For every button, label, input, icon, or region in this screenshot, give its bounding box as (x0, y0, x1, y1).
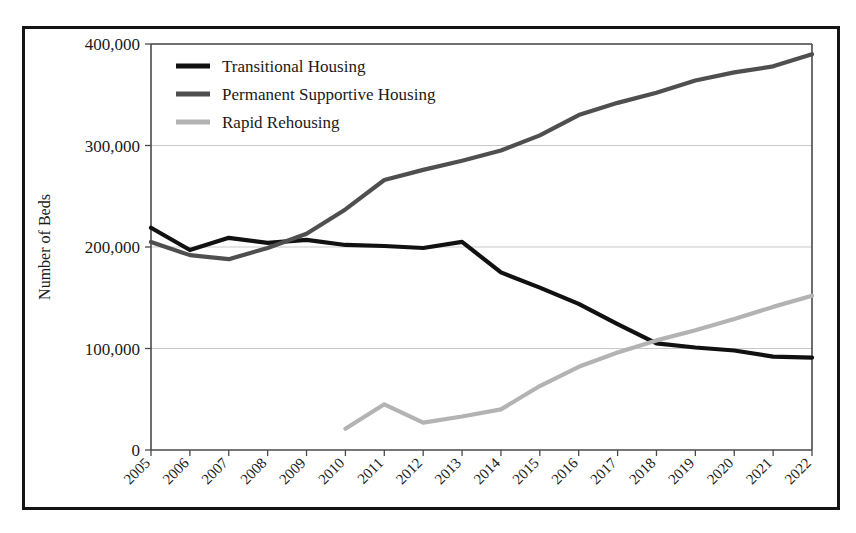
series-line-rapid-rehousing (345, 296, 812, 429)
x-tick-label: 2019 (665, 455, 698, 488)
x-tick-label: 2013 (432, 455, 465, 488)
chart-legend: Transitional HousingPermanent Supportive… (176, 57, 436, 132)
x-tick-label: 2006 (159, 454, 192, 487)
legend-label-1: Permanent Supportive Housing (222, 85, 436, 104)
line-chart: 400,000300,000200,000100,0000 2005200620… (0, 0, 856, 533)
x-tick-label: 2007 (198, 454, 231, 487)
x-tick-label: 2005 (121, 455, 154, 488)
x-axis-tick-group: 2005200620072008200920102011201220132014… (121, 450, 815, 487)
x-tick-label: 2015 (509, 455, 542, 488)
x-tick-label: 2016 (548, 454, 581, 487)
x-tick-label: 2008 (237, 455, 270, 488)
y-axis-title: Number of Beds (36, 194, 53, 300)
data-series-group (151, 54, 812, 429)
x-tick-label: 2010 (315, 455, 348, 488)
x-tick-label: 2022 (782, 455, 815, 488)
x-tick-label: 2018 (626, 455, 659, 488)
x-tick-label: 2011 (354, 455, 386, 487)
y-axis-tick-group: 400,000300,000200,000100,0000 (85, 35, 151, 460)
x-tick-label: 2017 (587, 454, 620, 487)
y-tick-label: 400,000 (85, 35, 140, 54)
legend-label-0: Transitional Housing (222, 57, 366, 76)
y-tick-label: 300,000 (85, 137, 140, 156)
y-tick-label: 200,000 (85, 238, 140, 257)
y-tick-label: 100,000 (85, 340, 140, 359)
x-tick-label: 2021 (743, 455, 776, 488)
x-tick-label: 2014 (471, 454, 504, 487)
legend-label-2: Rapid Rehousing (222, 113, 340, 132)
figure-container: 400,000300,000200,000100,0000 2005200620… (0, 0, 856, 533)
x-tick-label: 2012 (393, 455, 426, 488)
x-tick-label: 2009 (276, 455, 309, 488)
x-tick-label: 2020 (704, 455, 737, 488)
